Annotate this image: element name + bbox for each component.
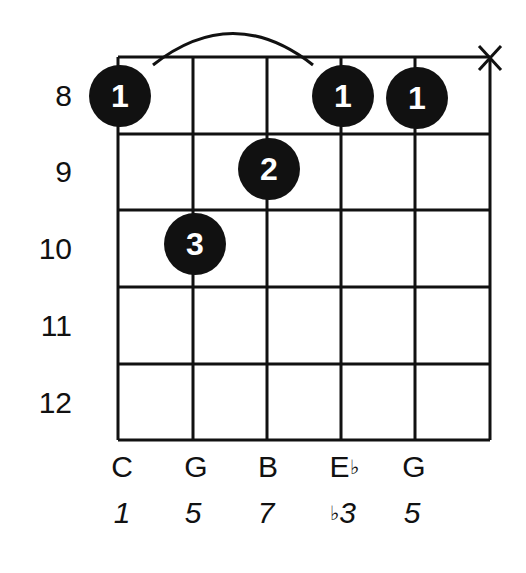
fret-label: 10 (12, 234, 72, 264)
note-label: E♭ (319, 452, 369, 482)
note-label: C (97, 452, 147, 482)
finger-dot: 1 (312, 65, 374, 127)
note-label: G (389, 452, 439, 482)
fret-label: 9 (12, 157, 72, 187)
finger-dot: 2 (238, 138, 300, 200)
degree-label: 1 (97, 498, 147, 528)
flat-icon: ♭ (350, 456, 359, 478)
note-label: G (171, 452, 221, 482)
chord-diagram: 8 9 10 11 12 1 3 2 1 1 C G B E♭ G 1 5 7 … (0, 0, 526, 573)
finger-dot: 3 (164, 213, 226, 275)
fret-label: 8 (12, 81, 72, 111)
fretboard-grid (0, 0, 526, 573)
degree-label: 5 (387, 498, 437, 528)
finger-dot: 1 (386, 67, 448, 129)
barre-arc (153, 34, 313, 66)
note-label: B (243, 452, 293, 482)
degree-label: 5 (168, 498, 218, 528)
degree-label: 7 (241, 498, 291, 528)
fret-label: 12 (12, 388, 72, 418)
fret-label: 11 (12, 311, 72, 341)
degree-label: ♭3 (318, 498, 368, 528)
flat-icon: ♭ (330, 502, 339, 524)
finger-dot: 1 (89, 65, 151, 127)
